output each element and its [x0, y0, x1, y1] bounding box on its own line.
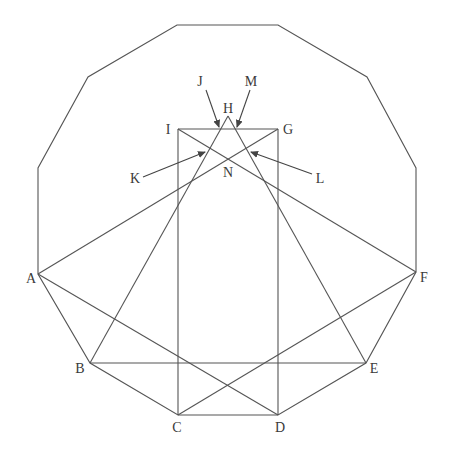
dodecagon-outline [38, 25, 416, 415]
label-c: C [172, 420, 181, 435]
label-l: L [316, 171, 325, 186]
geometry-diagram: ABCDEFGHIJKLMN [0, 0, 450, 455]
label-b: B [75, 361, 84, 376]
label-k: K [130, 171, 140, 186]
segment-AG [38, 129, 278, 274]
arrow-l-icon [251, 152, 312, 174]
label-d: D [275, 420, 285, 435]
label-h: H [223, 101, 233, 116]
arrow-j-icon [206, 90, 219, 127]
construction-lines [38, 116, 416, 415]
label-f: F [420, 270, 428, 285]
label-i: I [166, 122, 171, 137]
point-labels: ABCDEFGHIJKLMN [26, 74, 428, 435]
arrow-m-icon [237, 90, 250, 127]
segment-FI [178, 129, 416, 272]
label-n: N [223, 165, 233, 180]
label-j: J [197, 74, 203, 89]
segment-AD [38, 274, 278, 415]
segment-FC [178, 272, 416, 415]
segment-BH [90, 116, 228, 363]
label-e: E [370, 361, 379, 376]
label-g: G [283, 122, 293, 137]
segment-EH [228, 116, 366, 363]
label-m: M [245, 74, 258, 89]
label-a: A [26, 271, 37, 286]
